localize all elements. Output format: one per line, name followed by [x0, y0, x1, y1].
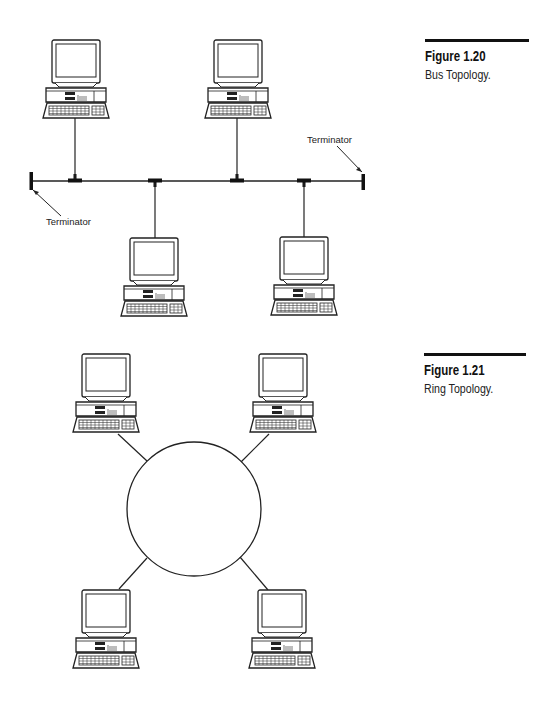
desktop-computer-icon — [121, 238, 187, 316]
desktop-computer-icon — [249, 590, 315, 668]
terminator-left-icon — [30, 172, 34, 190]
figure-rule — [424, 353, 526, 356]
figure-caption: Ring Topology. — [424, 382, 493, 396]
terminator-right-icon — [362, 174, 366, 190]
terminator-left-label: Terminator — [46, 216, 91, 227]
ring-topology-diagram — [73, 354, 316, 668]
figure-number: Figure 1.20 — [425, 48, 486, 64]
desktop-computer-icon — [73, 590, 139, 668]
figure-rule — [425, 39, 529, 42]
network-topology-diagram — [0, 0, 535, 714]
desktop-computer-icon — [43, 40, 109, 118]
desktop-computer-icon — [271, 237, 337, 315]
figure-caption: Bus Topology. — [425, 68, 491, 82]
desktop-computer-icon — [250, 354, 316, 432]
bus-topology-diagram — [30, 40, 366, 316]
ring-cable — [127, 442, 261, 576]
figure-number: Figure 1.21 — [424, 362, 485, 378]
arrowhead-icon — [356, 167, 362, 172]
desktop-computer-icon — [73, 354, 139, 432]
desktop-computer-icon — [205, 40, 271, 118]
terminator-left-pointer — [33, 190, 61, 216]
terminator-right-label: Terminator — [307, 134, 352, 145]
